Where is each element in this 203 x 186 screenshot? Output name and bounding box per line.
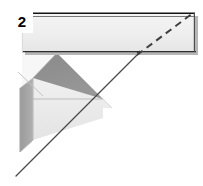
prism-left-side-face	[20, 78, 33, 152]
bar-face	[22, 13, 195, 52]
figure-container: 2	[0, 0, 203, 186]
triangular-prism	[20, 53, 112, 152]
horizontal-bar	[22, 13, 198, 55]
figure-number-label: 2	[11, 11, 33, 33]
